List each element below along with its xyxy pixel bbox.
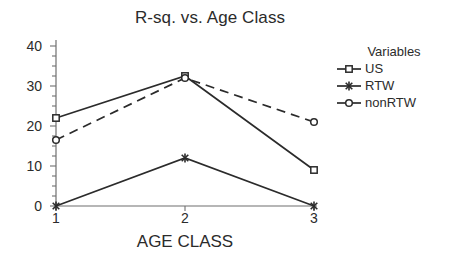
x-axis-tick-label: 3	[310, 210, 318, 226]
y-axis-tick-label: 10	[0, 158, 42, 174]
y-axis-tick-labels: 010203040	[0, 40, 42, 210]
chart-title: R-sq. vs. Age Class	[0, 8, 420, 28]
plot-area	[56, 46, 314, 206]
legend-item-nonrtw[interactable]: nonRTW	[336, 94, 448, 111]
plot-svg	[56, 46, 314, 206]
series-rtw	[53, 154, 318, 211]
data-point-marker-square	[311, 167, 317, 173]
legend-item-rtw[interactable]: RTW	[336, 77, 448, 94]
legend-label-nonrtw: nonRTW	[365, 96, 416, 110]
legend-label-us: US	[365, 62, 383, 76]
series-nonrtw	[53, 75, 318, 144]
x-axis-tick-label: 1	[52, 210, 60, 226]
legend-swatch-us	[336, 62, 362, 76]
series-line-rtw	[56, 158, 314, 206]
chart-legend: Variables USRTWnonRTW	[336, 44, 448, 111]
y-axis-tick-label: 40	[0, 38, 42, 54]
chart-figure: R-sq. vs. Age Class 010203040 123 AGE CL…	[0, 0, 451, 271]
series-line-nonrtw	[56, 78, 314, 140]
data-point-marker-circle	[311, 119, 318, 126]
legend-swatch-rtw	[336, 79, 362, 93]
legend-swatch-nonrtw	[336, 96, 362, 110]
x-axis-tick-labels: 123	[56, 210, 314, 230]
legend-label-rtw: RTW	[365, 79, 394, 93]
data-point-marker-circle	[53, 137, 60, 144]
y-axis-tick-label: 30	[0, 78, 42, 94]
data-point-marker-circle	[182, 75, 189, 82]
y-axis-tick-label: 20	[0, 118, 42, 134]
data-point-marker-square	[346, 65, 352, 71]
legend-item-us[interactable]: US	[336, 60, 448, 77]
x-axis-tick-label: 2	[181, 210, 189, 226]
data-point-marker-square	[53, 115, 59, 121]
legend-title: Variables	[336, 44, 448, 59]
y-axis-tick-label: 0	[0, 198, 42, 214]
x-axis-title: AGE CLASS	[56, 232, 314, 252]
data-point-marker-circle	[346, 99, 353, 106]
